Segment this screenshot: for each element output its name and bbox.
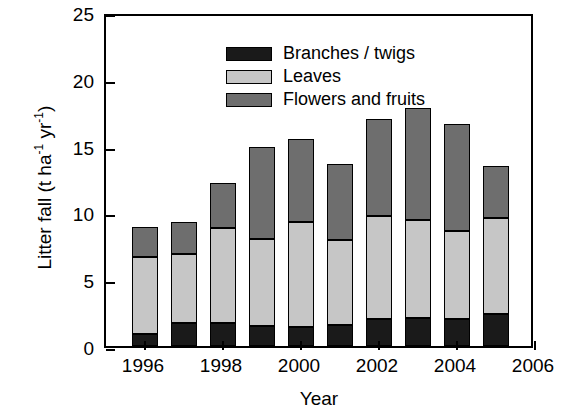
y-axis-title-prefix: Litter fall (t ha xyxy=(34,155,55,270)
bar-segment xyxy=(288,139,314,222)
bar-segment xyxy=(210,228,236,323)
bar-segment xyxy=(444,124,470,231)
y-tick-mark xyxy=(106,15,115,17)
legend-swatch xyxy=(226,70,272,84)
litter-fall-stacked-bar-chart: Litter fall (t ha-1 yr-1) 0510152025 Bra… xyxy=(0,0,563,414)
bar-segment xyxy=(327,240,353,324)
x-axis-title: Year xyxy=(104,388,534,410)
x-tick-label: 2004 xyxy=(434,356,476,375)
y-tick-mark xyxy=(106,349,115,351)
y-axis-title-suffix: ) xyxy=(34,106,55,112)
y-axis-title: Litter fall (t ha-1 yr-1) xyxy=(32,38,55,338)
bar-1998 xyxy=(210,183,236,346)
y-axis-title-sup1: -1 xyxy=(32,144,46,155)
bar-segment xyxy=(483,218,509,314)
x-tick-mark xyxy=(144,341,146,350)
bar-1997 xyxy=(171,222,197,346)
legend-item: Leaves xyxy=(226,65,466,88)
bar-segment xyxy=(327,164,353,240)
bar-segment xyxy=(249,239,275,326)
y-tick-mark xyxy=(106,282,115,284)
x-tick-label: 2002 xyxy=(356,356,398,375)
y-tick-label: 25 xyxy=(73,5,94,24)
bar-segment xyxy=(405,318,431,346)
bar-segment xyxy=(171,222,197,254)
x-axis-tick-labels: 199619982000200220042006 xyxy=(104,356,533,382)
legend-label: Flowers and fruits xyxy=(283,89,425,110)
legend-item: Branches / twigs xyxy=(226,42,466,65)
x-tick-label: 1996 xyxy=(122,356,164,375)
y-tick-mark xyxy=(106,82,115,84)
legend-label: Branches / twigs xyxy=(283,43,415,64)
bar-segment xyxy=(366,216,392,319)
y-tick-mark xyxy=(106,215,115,217)
y-tick-label: 5 xyxy=(83,272,94,291)
y-axis-title-mid: yr xyxy=(34,123,55,144)
bar-segment xyxy=(171,254,197,323)
y-tick-label: 15 xyxy=(73,138,94,157)
bar-2000 xyxy=(288,139,314,346)
x-tick-mark xyxy=(534,341,536,350)
x-tick-mark xyxy=(222,341,224,350)
bar-2002 xyxy=(366,119,392,346)
bar-2004 xyxy=(444,124,470,346)
x-tick-mark xyxy=(300,341,302,350)
legend-swatch xyxy=(226,93,272,107)
bar-segment xyxy=(483,314,509,346)
bar-2005 xyxy=(483,166,509,346)
x-tick-label: 1998 xyxy=(200,356,242,375)
bar-segment xyxy=(327,325,353,346)
legend-item: Flowers and fruits xyxy=(226,88,466,111)
chart-legend: Branches / twigsLeavesFlowers and fruits xyxy=(226,42,466,111)
bar-segment xyxy=(405,220,431,318)
y-tick-label: 0 xyxy=(83,339,94,358)
legend-label: Leaves xyxy=(283,66,341,87)
bar-segment xyxy=(132,227,158,256)
bar-2001 xyxy=(327,164,353,346)
bar-segment xyxy=(444,231,470,319)
y-tick-label: 10 xyxy=(73,205,94,224)
bar-segment xyxy=(132,257,158,334)
y-axis-tick-labels: 0510152025 xyxy=(54,14,98,348)
x-tick-mark xyxy=(456,341,458,350)
y-tick-label: 20 xyxy=(73,71,94,90)
bar-segment xyxy=(405,108,431,220)
bar-segment xyxy=(288,222,314,328)
bar-1996 xyxy=(132,227,158,346)
legend-swatch xyxy=(226,47,272,61)
x-tick-label: 2006 xyxy=(512,356,554,375)
bar-segment xyxy=(483,166,509,218)
bar-segment xyxy=(249,147,275,239)
bar-segment xyxy=(210,183,236,228)
bar-segment xyxy=(249,326,275,346)
plot-area: Branches / twigsLeavesFlowers and fruits xyxy=(104,14,533,348)
y-tick-mark xyxy=(106,149,115,151)
bar-segment xyxy=(171,323,197,346)
y-axis-title-sup2: -1 xyxy=(32,112,46,123)
x-tick-label: 2000 xyxy=(278,356,320,375)
bar-segment xyxy=(366,119,392,217)
bar-1999 xyxy=(249,147,275,346)
x-tick-mark xyxy=(378,341,380,350)
bar-2003 xyxy=(405,108,431,346)
